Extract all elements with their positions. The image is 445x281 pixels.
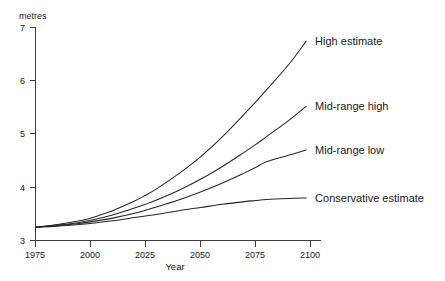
y-tick-label-4: 4	[20, 183, 25, 193]
x-axis-ticks	[36, 241, 311, 247]
series-line-mid-range-high	[36, 106, 307, 227]
sea-level-rise-chart: 7 6 5 4 3 1975 2000 2025 2050 2075 2100 …	[0, 0, 445, 281]
y-axis-title: metres	[19, 11, 47, 21]
x-tick-label-2000: 2000	[80, 250, 100, 260]
series-label-conservative-estimate: Conservative estimate	[315, 192, 424, 204]
series-label-mid-range-low: Mid-range low	[315, 144, 384, 156]
y-tick-label-3: 3	[20, 236, 25, 246]
y-tick-label-5: 5	[20, 129, 25, 139]
x-tick-label-2050: 2050	[190, 250, 210, 260]
series-line-mid-range-low	[36, 150, 307, 227]
series-label-high-estimate: High estimate	[315, 35, 382, 47]
series-label-mid-range-high: Mid-range high	[315, 100, 388, 112]
series-lines	[36, 41, 307, 227]
y-tick-label-6: 6	[20, 76, 25, 86]
y-tick-label-7: 7	[20, 23, 25, 33]
x-tick-label-2075: 2075	[245, 250, 265, 260]
y-axis-ticks	[30, 28, 36, 241]
x-axis-title: Year	[165, 261, 184, 272]
chart-canvas: 7 6 5 4 3 1975 2000 2025 2050 2075 2100 …	[0, 0, 445, 281]
x-tick-label-2100: 2100	[300, 250, 320, 260]
x-tick-label-2025: 2025	[135, 250, 155, 260]
x-tick-label-1975: 1975	[25, 250, 45, 260]
series-labels: High estimateMid-range highMid-range low…	[315, 35, 424, 204]
